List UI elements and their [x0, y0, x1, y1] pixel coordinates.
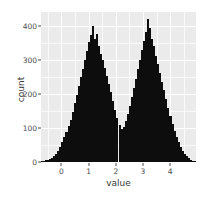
- y-axis-tick-mark: [38, 162, 41, 163]
- x-axis-tick-label: 1: [86, 167, 91, 176]
- histogram-bar: [194, 161, 196, 162]
- y-axis-tick-mark: [38, 127, 41, 128]
- x-axis-tick-label: 3: [141, 167, 146, 176]
- x-axis-tick-label: 4: [168, 167, 173, 176]
- y-axis-tick-label: 400: [20, 21, 37, 30]
- x-axis-tick-label: 0: [59, 167, 64, 176]
- y-axis-tick-mark: [38, 25, 41, 26]
- x-axis-tick-mark: [142, 163, 143, 166]
- x-axis-tick-mark: [88, 163, 89, 166]
- plot-panel: [41, 12, 196, 162]
- y-axis-tick-label: 300: [20, 55, 37, 64]
- x-axis-tick-label: 2: [113, 167, 118, 176]
- y-axis-tick-mark: [38, 59, 41, 60]
- x-axis-tick-mark: [170, 163, 171, 166]
- y-axis-tick-label: 0: [20, 158, 37, 167]
- y-axis-tick-mark: [38, 93, 41, 94]
- x-axis-tick-mark: [115, 163, 116, 166]
- y-axis-tick-labels: 0100200300400: [20, 0, 37, 199]
- histogram-figure: count 0100200300400 value 01234: [0, 0, 211, 199]
- y-axis-tick-label: 100: [20, 123, 37, 132]
- histogram-bars: [41, 12, 196, 162]
- x-axis-tick-mark: [61, 163, 62, 166]
- y-axis-tick-label: 200: [20, 89, 37, 98]
- x-axis-title: value: [41, 178, 196, 188]
